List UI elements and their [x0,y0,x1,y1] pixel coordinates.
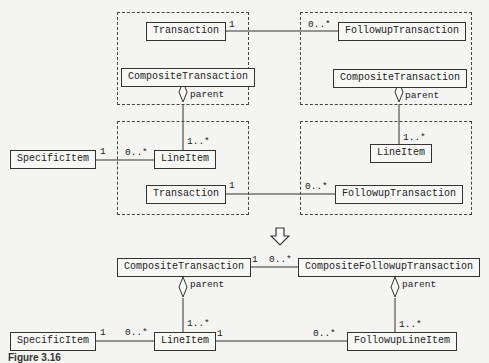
multiplicity-label: 1 [100,147,106,157]
multiplicity-label: 0..* [308,20,331,30]
multiplicity-label: 0..* [125,148,148,158]
role-label: parent [402,280,436,290]
multiplicity-label: 1 [252,255,258,265]
role-label: parent [190,280,224,290]
class-followup-transaction[interactable]: FollowupTransaction [335,185,463,204]
multiplicity-label: 0..* [313,329,336,339]
multiplicity-label: 1..* [403,133,426,143]
class-line-item[interactable]: LineItem [370,144,432,163]
figure-caption: Figure 3.16 [8,352,61,363]
class-transaction[interactable]: Transaction [146,22,226,41]
class-followup-transaction[interactable]: FollowupTransaction [338,22,466,41]
role-label: parent [405,91,439,101]
multiplicity-label: 1 [229,20,235,30]
multiplicity-label: 1 [229,181,235,191]
class-specific-item[interactable]: SpecificItem [10,150,96,169]
class-composite-transaction[interactable]: CompositeTransaction [117,258,251,277]
down-arrow-icon [270,227,290,247]
multiplicity-label: 1 [217,329,223,339]
class-composite-transaction[interactable]: CompositeTransaction [333,69,467,88]
class-followup-line-item[interactable]: FollowupLineItem [347,332,457,351]
multiplicity-label: 0..* [305,182,328,192]
multiplicity-label: 0..* [269,255,292,265]
class-line-item[interactable]: LineItem [154,332,216,351]
class-line-item[interactable]: LineItem [154,150,216,169]
class-composite-followup-transaction[interactable]: CompositeFollowupTransaction [298,258,480,277]
multiplicity-label: 1 [100,328,106,338]
class-specific-item[interactable]: SpecificItem [10,332,96,351]
multiplicity-label: 0..* [125,328,148,338]
role-label: parent [190,90,224,100]
class-composite-transaction[interactable]: CompositeTransaction [121,68,255,87]
multiplicity-label: 1..* [399,320,422,330]
multiplicity-label: 1..* [187,137,210,147]
multiplicity-label: 1..* [187,319,210,329]
class-transaction[interactable]: Transaction [146,185,226,204]
